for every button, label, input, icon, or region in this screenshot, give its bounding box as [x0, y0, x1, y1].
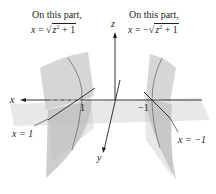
right-part-caption: On this part, [129, 9, 179, 21]
plane-label-x-eq-1-text: x = 1 [12, 128, 33, 139]
z-axis-label: z [111, 18, 115, 30]
right-eq-equals: = − [132, 24, 148, 35]
y-axis-arrowhead [102, 147, 106, 153]
plane-label-x-eq-neg1: x = −1 [178, 134, 206, 146]
x-axis-arrowhead [20, 98, 26, 102]
plane-label-x-eq-neg1-text: x = −1 [178, 134, 206, 145]
y-axis-label: y [97, 152, 101, 164]
x-axis-label: x [10, 94, 14, 106]
left-part-caption: On this part, [32, 9, 82, 21]
left-eq-tail: + 1 [60, 24, 76, 35]
right-part-equation: x = −√z2 + 1 [128, 23, 179, 36]
right-eq-tail: + 1 [162, 24, 178, 35]
z-axis-arrowhead [113, 32, 117, 38]
plane-label-x-eq-1: x = 1 [12, 128, 33, 140]
tick-label-neg1: −1 [138, 102, 149, 114]
left-eq-equals: = [35, 24, 46, 35]
right-sheet-upper [146, 54, 176, 102]
left-part-equation: x = √z2 + 1 [31, 23, 76, 36]
tick-label-1: 1 [80, 102, 85, 114]
